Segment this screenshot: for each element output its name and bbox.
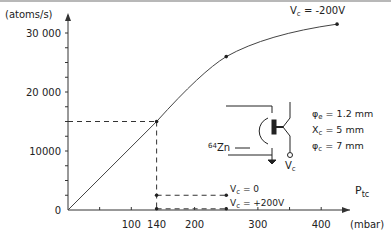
- x-tick-label: 300: [248, 219, 267, 230]
- inset-isotope-label: 64Zn: [208, 142, 230, 153]
- inset-collector-bar: [272, 120, 276, 134]
- y-tick-label: 10000: [29, 146, 61, 157]
- series-line-vc-neg200: [68, 24, 337, 210]
- inset-electrode-top: [226, 106, 272, 113]
- x-axis-label: Ptc: [355, 184, 369, 199]
- data-point: [224, 193, 228, 197]
- y-tick-label: 30 000: [26, 28, 61, 39]
- x-axis-unit: (mbar): [350, 219, 384, 230]
- inset-terminal-label: Vc: [285, 160, 296, 173]
- inset-params: φe = 1.2 mm Xc = 5 mm φc = 7 mm: [312, 108, 373, 153]
- data-point: [335, 22, 339, 26]
- data-point: [155, 207, 159, 211]
- inset-terminal-circle: [288, 153, 293, 158]
- inset-electrode-bottom: [228, 148, 272, 155]
- x-tick-label: 200: [185, 219, 204, 230]
- inset-diagram: [226, 102, 293, 164]
- inset-param-x-c: Xc = 5 mm: [312, 124, 364, 137]
- series-group: [68, 22, 339, 210]
- inset-param-phi-c: φc = 7 mm: [312, 140, 364, 153]
- axes: 10014020030040001000020 00030 000: [26, 13, 350, 230]
- y-tick-label: 0: [55, 205, 61, 216]
- inset-electrode-arc: [259, 118, 268, 144]
- chart: 10014020030040001000020 00030 000 (atoms…: [0, 0, 391, 242]
- data-point: [224, 207, 228, 211]
- x-tick-label: 400: [312, 219, 331, 230]
- y-axis-label: (atoms/s): [5, 9, 53, 20]
- data-point: [155, 193, 159, 197]
- y-axis-arrow: [65, 13, 71, 21]
- data-point: [224, 55, 228, 59]
- inset-lead-top: [283, 102, 290, 127]
- data-point: [155, 120, 159, 124]
- inset-lead-bottom: [283, 127, 290, 152]
- x-tick-label: 100: [122, 219, 141, 230]
- series-label-vc-neg200: Vc = -200V: [290, 5, 345, 18]
- y-tick-label: 20 000: [26, 87, 61, 98]
- series-label-vc-0: Vc = 0: [230, 184, 259, 196]
- x-tick-label: 140: [147, 219, 166, 230]
- inset-param-phi-e: φe = 1.2 mm: [312, 108, 373, 121]
- ground-icon: [268, 160, 276, 164]
- x-axis-arrow: [342, 207, 350, 213]
- x-axis-label-sub: tc: [362, 190, 370, 199]
